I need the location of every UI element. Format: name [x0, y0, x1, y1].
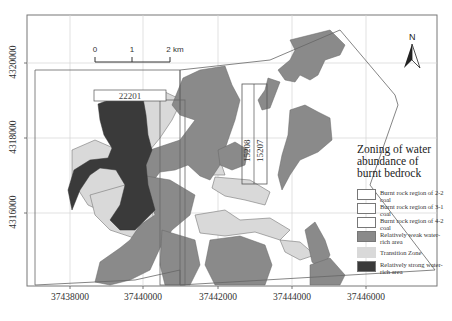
- legend-swatch: [357, 189, 376, 200]
- x-tick-label: 37446000: [347, 292, 385, 302]
- legend-title-line: abundance of: [357, 155, 431, 167]
- panel-label-22201: 22201: [119, 91, 142, 101]
- legend-label: Burnt rock region of 4-2 coal: [380, 217, 450, 231]
- legend-item-3-1-coal: Burnt rock region of 3-1 coal: [357, 203, 450, 217]
- x-tick-label: 37442000: [199, 292, 237, 302]
- panel-label-15208: 15208: [242, 139, 252, 162]
- y-tick-label: 4320000: [8, 32, 18, 92]
- legend-label: Burnt rock region of 2-2 coal: [380, 189, 450, 203]
- y-tick-label: 4316000: [8, 182, 18, 242]
- legend-item-2-2-coal: Burnt rock region of 2-2 coal: [357, 189, 450, 203]
- legend-swatch: [357, 261, 376, 272]
- north-label: N: [409, 32, 416, 42]
- scale-label-0: 0: [93, 45, 97, 54]
- legend-label: Relatively weak water-rich area: [380, 231, 450, 245]
- legend-swatch: [357, 247, 376, 258]
- legend-item-strong: Relatively strong water-rich area: [357, 261, 450, 275]
- x-tick-label: 37440000: [124, 292, 162, 302]
- legend-item-4-2-coal: Burnt rock region of 4-2 coal: [357, 217, 450, 231]
- scale-label-2: 2 km: [166, 45, 183, 54]
- x-tick-label: 37438000: [51, 292, 89, 302]
- scale-label-1: 1: [130, 45, 134, 54]
- y-tick-label: 4318000: [8, 107, 18, 167]
- legend-swatch: [357, 217, 376, 228]
- legend-title-line: burnt bedrock: [357, 167, 431, 179]
- legend-label: Burnt rock region of 3-1 coal: [380, 203, 450, 217]
- panel-label-15207: 15207: [255, 139, 265, 162]
- legend-label: Relatively strong water-rich area: [380, 261, 450, 275]
- x-tick-label: 37444000: [273, 292, 311, 302]
- legend-title: Zoning of water abundance of burnt bedro…: [357, 143, 431, 179]
- legend-swatch: [357, 231, 376, 242]
- legend-swatch: [357, 203, 376, 214]
- legend-title-line: Zoning of water: [357, 143, 431, 155]
- legend-label: Transition Zone: [380, 247, 450, 256]
- legend-item-weak: Relatively weak water-rich area: [357, 231, 450, 245]
- legend-item-transition: Transition Zone: [357, 247, 450, 258]
